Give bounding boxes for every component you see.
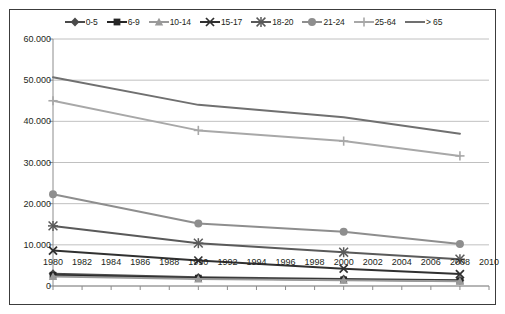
- legend-glyph: [203, 16, 217, 28]
- x-tick-label: 2002: [363, 257, 383, 267]
- plot-area: 010.00020.00030.00040.00050.00060.000 19…: [10, 10, 497, 306]
- x-tick-label: 1986: [130, 257, 150, 267]
- legend-glyph: [408, 16, 422, 28]
- x-tick-label: 2000: [334, 257, 354, 267]
- legend-glyph: [152, 16, 166, 28]
- x-tick-label: 1994: [246, 257, 266, 267]
- x-tick-label: 2010: [479, 257, 499, 267]
- x-axis-labels: 1980198219841986198819901992199419961998…: [10, 10, 497, 306]
- legend-glyph: [254, 16, 268, 28]
- x-tick-label: 1980: [43, 257, 63, 267]
- marker-square: [113, 19, 120, 26]
- x-tick-label: 1984: [101, 257, 121, 267]
- marker-circle: [308, 18, 316, 26]
- x-tick-label: 2008: [450, 257, 470, 267]
- legend-glyph: [305, 16, 319, 28]
- legend-glyph: [68, 16, 82, 28]
- marker-diamond: [70, 18, 79, 27]
- legend-glyph: [110, 16, 124, 28]
- legend-glyph: [357, 16, 371, 28]
- x-tick-label: 2004: [392, 257, 412, 267]
- marker-triangle: [154, 18, 162, 26]
- chart-frame: 0-56-910-1415-1718-2021-2425-64> 65 010.…: [9, 9, 496, 305]
- x-tick-label: 1990: [188, 257, 208, 267]
- x-tick-label: 1998: [305, 257, 325, 267]
- x-tick-label: 2006: [421, 257, 441, 267]
- x-tick-label: 1992: [217, 257, 237, 267]
- x-tick-label: 1982: [72, 257, 92, 267]
- x-tick-label: 1996: [276, 257, 296, 267]
- x-tick-label: 1988: [159, 257, 179, 267]
